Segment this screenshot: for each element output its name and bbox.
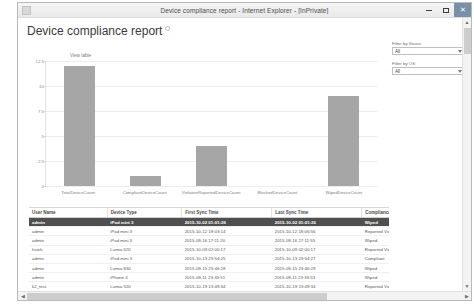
cell-device-type: iPad mini 3 [107, 254, 181, 263]
table-column-header[interactable]: Last Sync Time [272, 208, 362, 218]
cell-first-sync-time: 2015-09-11 23:33:51 [182, 273, 272, 282]
cell-first-sync-time: 2015-10-02 01:01:26 [182, 218, 272, 227]
table-body: adminiPad mini 32015-10-02 01:01:262015-… [29, 218, 389, 292]
cell-first-sync-time: 2015-09-15 23:46:28 [182, 263, 272, 272]
cell-last-sync-time: 2015-09-16 17:11:55 [272, 236, 362, 245]
cell-compliance-status: Wiped [362, 236, 389, 245]
table-column-header[interactable]: Compliance Status [362, 208, 389, 218]
chart-bars [46, 61, 377, 186]
view-table-link[interactable]: View table [70, 53, 91, 58]
filter-status-label: Filter by Status [392, 41, 465, 46]
cell-last-sync-time: 2015-10-09 02:00:17 [272, 245, 362, 254]
scroll-up-arrow[interactable]: ▲ [465, 18, 470, 27]
filter-panel: Filter by Status All Filter by OS All [389, 18, 471, 291]
chart-bar-slot [46, 61, 112, 186]
chart-y-axis-label: 12.5 [35, 59, 44, 64]
filter-os-group: Filter by OS All [392, 61, 465, 75]
cell-user-name: admin [29, 227, 107, 236]
table-row[interactable]: adminiPhone 42015-09-11 23:33:512015-09-… [29, 273, 389, 282]
table-row[interactable]: adminLumia 8302015-09-15 23:46:282015-09… [29, 263, 389, 272]
cell-device-type: Lumia 620 [107, 245, 181, 254]
cell-device-type: iPad mini 3 [107, 218, 181, 227]
cell-device-type: iPad mini 3 [107, 227, 181, 236]
cell-compliance-status: Wiped [362, 218, 389, 227]
filter-status-select[interactable]: All [392, 47, 465, 55]
table-row[interactable]: adminiPad mini 32015-10-12 18:03:142015-… [29, 227, 389, 236]
bar-chart: 12.5107.552.50 TotalDeviceCountCompliant… [29, 61, 377, 201]
table-row[interactable]: adminiPad mini 32015-10-02 01:01:262015-… [29, 218, 389, 227]
cell-user-name: admin [29, 236, 107, 245]
cell-user-name: admin [29, 254, 107, 263]
vertical-scroll-thumb[interactable] [464, 28, 471, 54]
cell-user-name: hsieh [29, 245, 107, 254]
device-table: User NameDevice TypeFirst Sync TimeLast … [29, 208, 389, 291]
chart-bar[interactable] [328, 96, 359, 186]
cell-last-sync-time: 2015-09-15 23:46:29 [272, 263, 362, 272]
table-row[interactable]: hsiehLumia 6202015-10-09 02:00:172015-10… [29, 245, 389, 254]
table-column-header[interactable]: Device Type [107, 208, 181, 218]
chart-y-tick [44, 186, 46, 187]
cell-user-name: k2_test [29, 282, 107, 291]
cell-user-name: admin [29, 263, 107, 272]
cell-device-type: Lumia 830 [107, 263, 181, 272]
chart-x-axis-label: TotalDeviceCount [45, 190, 111, 195]
chart-plot-area: 12.5107.552.50 [45, 61, 377, 187]
page-body: Device compliance report View table 12.5… [18, 18, 471, 291]
horizontal-scroll-thumb[interactable] [27, 293, 327, 300]
cell-device-type: iPhone 4 [107, 273, 181, 282]
help-icon[interactable] [165, 26, 170, 31]
chart-x-axis-label: CompliantDeviceCount [111, 190, 177, 195]
scroll-down-arrow[interactable]: ▼ [465, 282, 470, 291]
cell-first-sync-time: 2015-10-09 02:00:17 [182, 245, 272, 254]
filter-status-group: Filter by Status All [392, 41, 465, 55]
cell-last-sync-time: 2015-10-13 23:54:27 [272, 254, 362, 263]
chart-bar[interactable] [196, 146, 227, 186]
cell-last-sync-time: 2015-10-02 01:01:26 [272, 218, 362, 227]
table-column-header[interactable]: User Name [29, 208, 107, 218]
chart-bar[interactable] [130, 176, 161, 186]
chart-x-axis-label: WipedDeviceCount [311, 190, 377, 195]
chart-section: View table 12.5107.552.50 TotalDeviceCou… [29, 43, 389, 201]
device-table-wrapper: User NameDevice TypeFirst Sync TimeLast … [29, 207, 389, 291]
chart-bar-slot [178, 61, 244, 186]
title-bar: Device compliance report - Internet Expl… [18, 3, 471, 18]
chart-bar[interactable] [64, 66, 95, 186]
cell-device-type: iPad mini 3 [107, 236, 181, 245]
cell-compliance-status: Reported Violation [362, 282, 389, 291]
filter-os-label: Filter by OS [392, 61, 465, 66]
filter-os-select[interactable]: All [392, 67, 465, 75]
cell-last-sync-time: 2015-10-19 13:49:34 [272, 282, 362, 291]
scroll-right-arrow[interactable]: ▶ [462, 293, 471, 299]
table-column-header[interactable]: First Sync Time [182, 208, 272, 218]
filter-os-value: All [395, 69, 400, 74]
chart-x-axis-label: ViolationReportedDeviceCount [178, 190, 244, 195]
scroll-left-arrow[interactable]: ◀ [18, 293, 27, 299]
cell-compliance-status: Reported Violation [362, 245, 389, 254]
cell-compliance-status: Compliant [362, 254, 389, 263]
cell-first-sync-time: 2015-10-19 13:49:34 [182, 282, 272, 291]
table-row[interactable]: adminiPad mini 32015-09-16 17:11:202015-… [29, 236, 389, 245]
horizontal-scrollbar[interactable]: ◀ ▶ [18, 291, 471, 300]
filter-status-value: All [395, 49, 400, 54]
page-title: Device compliance report [27, 24, 389, 38]
browser-window: Device compliance report - Internet Expl… [17, 2, 472, 301]
cell-last-sync-time: 2015-10-12 18:06:56 [272, 227, 362, 236]
chart-x-axis-labels: TotalDeviceCountCompliantDeviceCountViol… [45, 188, 377, 201]
cell-user-name: admin [29, 273, 107, 282]
cell-compliance-status: Reported Violation [362, 227, 389, 236]
cell-user-name: admin [29, 218, 107, 227]
table-row[interactable]: adminiPad mini 32015-10-13 23:54:252015-… [29, 254, 389, 263]
table-row[interactable]: k2_testLumia 5202015-10-19 13:49:342015-… [29, 282, 389, 291]
report-content: Device compliance report View table 12.5… [18, 18, 389, 291]
chart-bar-slot [245, 61, 311, 186]
chart-gridline [46, 186, 377, 187]
vertical-scrollbar[interactable]: ▲ ▼ [462, 18, 471, 291]
window-title: Device compliance report - Internet Expl… [18, 7, 471, 14]
cell-device-type: Lumia 520 [107, 282, 181, 291]
chart-bar-slot [112, 61, 178, 186]
page-title-text: Device compliance report [27, 24, 162, 38]
cell-compliance-status: Wiped [362, 273, 389, 282]
cell-compliance-status: Wiped [362, 263, 389, 272]
cell-last-sync-time: 2015-09-11 23:33:53 [272, 273, 362, 282]
cell-first-sync-time: 2015-09-16 17:11:20 [182, 236, 272, 245]
